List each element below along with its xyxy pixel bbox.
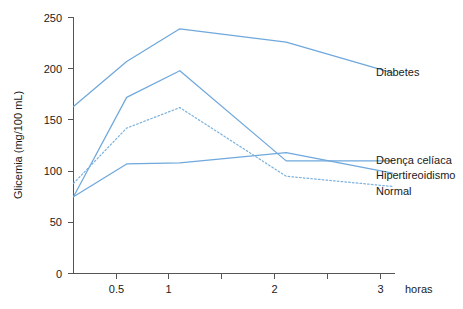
- data-series-group: [74, 29, 393, 197]
- series-label-diabetes: Diabetes: [376, 66, 420, 78]
- chart-canvas: 250 200 150 100 50 0 0.5 1 2 3 Glicemia …: [0, 0, 463, 309]
- glicemia-line-chart: 250 200 150 100 50 0 0.5 1 2 3 Glicemia …: [0, 0, 463, 309]
- x-tick-label-1: 1: [165, 283, 171, 295]
- series-label-doenca-celiaca: Doença celíaca: [376, 154, 453, 166]
- y-tick-label-100: 100: [44, 165, 62, 177]
- y-tick-label-200: 200: [44, 63, 62, 75]
- y-tick-marks: [68, 18, 74, 274]
- axes-group: [74, 17, 396, 274]
- series-line-normal: [74, 108, 393, 187]
- y-tick-label-250: 250: [44, 12, 62, 24]
- x-tick-marks: [117, 274, 381, 280]
- x-tick-labels: 0.5 1 2 3: [109, 283, 384, 295]
- x-tick-label-3: 3: [377, 283, 383, 295]
- series-labels-group: Diabetes Doença celíaca Hipertireoidismo…: [376, 66, 455, 197]
- y-axis-title: Glicemia (mg/100 mL): [12, 91, 24, 199]
- y-tick-label-50: 50: [50, 216, 62, 228]
- y-tick-labels: 250 200 150 100 50 0: [44, 12, 62, 280]
- y-tick-label-150: 150: [44, 114, 62, 126]
- x-tick-label-0.5: 0.5: [109, 283, 124, 295]
- series-label-normal: Normal: [376, 185, 411, 197]
- x-axis-title: horas: [405, 283, 433, 295]
- series-line-diabetes: [74, 29, 393, 107]
- series-line-hipertireoidismo: [74, 153, 393, 197]
- y-tick-label-0: 0: [56, 268, 62, 280]
- series-label-hipertireoidismo: Hipertireoidismo: [376, 169, 455, 181]
- x-tick-label-2: 2: [271, 283, 277, 295]
